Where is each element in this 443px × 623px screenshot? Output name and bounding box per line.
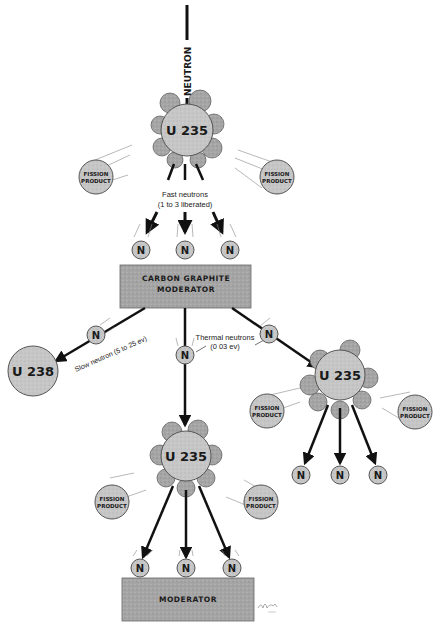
fission-diagram: NEUTRON U 235 FISSION PRODUCT FISSION PR… (0, 0, 443, 623)
svg-text:MODERATOR: MODERATOR (159, 595, 217, 604)
svg-text:N: N (181, 245, 189, 256)
svg-text:U 235: U 235 (319, 368, 361, 383)
top-fission-product-right: FISSION PRODUCT (235, 150, 294, 194)
top-fission-product-left: FISSION PRODUCT (79, 145, 132, 194)
svg-text:MODERATOR: MODERATOR (157, 285, 215, 294)
svg-text:N: N (374, 470, 382, 481)
svg-text:PRODUCT: PRODUCT (252, 412, 282, 418)
neutron-particle: N (369, 466, 387, 484)
svg-text:U 238: U 238 (12, 364, 54, 379)
svg-text:FISSION: FISSION (403, 406, 428, 412)
svg-text:(0 03 ev): (0 03 ev) (210, 342, 240, 351)
svg-text:PRODUCT: PRODUCT (400, 413, 430, 419)
artist-signature-icon (258, 604, 277, 612)
svg-text:Thermal neutrons: Thermal neutrons (196, 333, 255, 342)
u238-nucleus: U 238 (8, 346, 58, 396)
slow-neutron-caption: Slow neutron (5 to 25 ev) (74, 335, 149, 374)
svg-text:N: N (137, 245, 145, 256)
svg-text:N: N (297, 470, 305, 481)
svg-text:PRODUCT: PRODUCT (246, 503, 276, 509)
slow-neutron-path: N Slow neutron (5 to 25 ev) (56, 308, 148, 374)
neutron-label: NEUTRON (183, 47, 193, 96)
central-thermal-path: N (176, 308, 206, 425)
bottom-fission-product-right: FISSION PRODUCT (226, 480, 278, 519)
svg-text:N: N (181, 350, 189, 361)
svg-text:N: N (265, 329, 273, 340)
bottom-u235-nucleus: U 235 (150, 420, 222, 497)
neutron-particle: N (331, 466, 349, 484)
bottom-nucleus-neutrons: N N N (131, 486, 241, 577)
svg-text:PRODUCT: PRODUCT (97, 503, 127, 509)
svg-text:PRODUCT: PRODUCT (262, 178, 292, 184)
nucleus-label: U 235 (166, 123, 208, 138)
neutron-particle: N (222, 550, 241, 577)
svg-text:FISSION: FISSION (100, 496, 125, 502)
svg-text:FISSION: FISSION (265, 171, 290, 177)
svg-text:FISSION: FISSION (255, 405, 280, 411)
svg-text:N: N (226, 245, 234, 256)
right-fission-product-left: FISSION PRODUCT (250, 388, 300, 428)
carbon-graphite-moderator: CARBON GRAPHITE MODERATOR (120, 265, 251, 308)
neutron-particle: N (292, 466, 310, 484)
bottom-moderator: MODERATOR (122, 578, 254, 621)
fast-neutrons-emission: Fast neutrons (1 to 3 liberated) (147, 164, 222, 232)
right-nucleus-neutrons: N N N (292, 405, 387, 484)
bottom-fission-product-left: FISSION PRODUCT (95, 473, 146, 519)
svg-text:N: N (136, 563, 144, 574)
svg-text:FISSION: FISSION (249, 496, 274, 502)
thermal-neutrons-caption: Thermal neutrons (0 03 ev) (196, 333, 264, 351)
svg-text:CARBON GRAPHITE: CARBON GRAPHITE (142, 274, 230, 283)
svg-text:N: N (228, 563, 236, 574)
svg-text:N: N (182, 563, 190, 574)
neutron-particle: N (131, 550, 152, 577)
svg-text:N: N (336, 470, 344, 481)
right-u235-nucleus: U 235 (300, 340, 378, 419)
svg-text:U 235: U 235 (165, 449, 207, 464)
right-fission-product-right: FISSION PRODUCT (380, 392, 432, 429)
svg-text:N: N (92, 330, 100, 341)
svg-text:FISSION: FISSION (84, 171, 109, 177)
svg-text:PRODUCT: PRODUCT (81, 178, 111, 184)
fast-neutrons-caption: Fast neutrons (162, 190, 208, 199)
fast-neutrons-caption-2: (1 to 3 liberated) (158, 200, 213, 209)
